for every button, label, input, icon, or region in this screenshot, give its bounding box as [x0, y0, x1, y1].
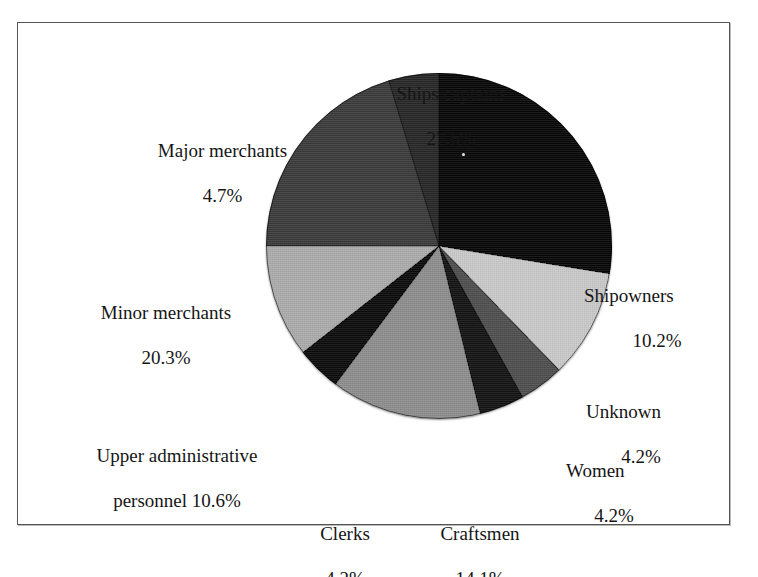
slice-label-minor-merchants: Minor merchants 20.3% [56, 280, 276, 392]
slice-label-percent: 27.6% [336, 128, 566, 150]
slice-label-percent: 20.3% [56, 347, 276, 369]
slice-label-ships-captains: Ships captains 27.6% [336, 61, 566, 173]
figure-page: Ships captains 27.6% Shipowners 10.2% Un… [0, 0, 758, 577]
slice-label-name: Major merchants [110, 140, 335, 162]
slice-label-upper-administrative-personnel: Upper administrative personnel 10.6% [46, 423, 308, 535]
slice-label-name: Upper administrative [46, 445, 308, 467]
slice-label-major-merchants: Major merchants 4.7% [110, 118, 335, 230]
slice-label-percent: 4.2% [270, 568, 420, 577]
slice-label-name: Unknown [586, 401, 754, 423]
figure-frame: Ships captains 27.6% Shipowners 10.2% Un… [17, 22, 730, 525]
slice-label-name: Minor merchants [56, 302, 276, 324]
slice-label-percent: 4.7% [110, 185, 335, 207]
slice-label-name: Ships captains [336, 83, 566, 105]
clipped-heading-above-figure [0, 0, 758, 7]
slice-label-name: Women [566, 460, 734, 482]
slice-label-percent: 4.2% [566, 505, 734, 527]
slice-label-women: Women 4.2% [566, 438, 734, 550]
slice-label-percent: personnel 10.6% [46, 490, 308, 512]
slice-label-percent: 10.2% [584, 330, 752, 352]
slice-label-name: Shipowners [584, 285, 752, 307]
slice-label-shipowners: Shipowners 10.2% [584, 263, 752, 375]
